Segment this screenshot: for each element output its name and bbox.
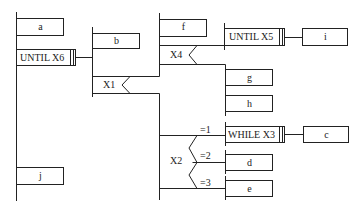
box-e: e xyxy=(226,183,273,195)
box-b: b xyxy=(93,35,140,47)
box-a: a xyxy=(17,21,64,33)
x4-condition: X4 xyxy=(170,49,182,61)
until-x6-label: UNTIL X6 xyxy=(20,52,64,64)
pad-diagram: a UNTIL X6 b X1 f X4 UNTIL X5 i g h X2 =… xyxy=(0,0,364,211)
box-g: g xyxy=(226,72,273,84)
until-x5-label: UNTIL X5 xyxy=(229,31,273,43)
case-3-label: =3 xyxy=(200,177,211,189)
x2-condition: X2 xyxy=(170,155,182,167)
case-2-label: =2 xyxy=(200,150,211,162)
box-h: h xyxy=(226,98,273,110)
while-x3-label: WHILE X3 xyxy=(228,129,275,141)
box-j: j xyxy=(17,170,64,182)
box-d: d xyxy=(226,157,273,169)
box-f: f xyxy=(160,21,207,33)
box-c: c xyxy=(304,129,349,141)
case-1-label: =1 xyxy=(200,124,211,136)
x1-condition: X1 xyxy=(103,79,115,91)
box-i: i xyxy=(303,31,348,43)
